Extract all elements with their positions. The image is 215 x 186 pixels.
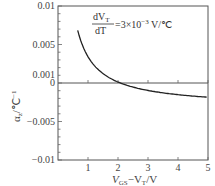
- x-tick-label: 5: [206, 162, 211, 173]
- x-tick-label: 1: [86, 162, 91, 173]
- x-tick-label: 4: [176, 162, 181, 173]
- chart: 0.010.0050.0010−0.005−0.01 12345 dVT dT …: [0, 0, 215, 186]
- x-axis-label: VGS−VT/V: [112, 173, 157, 186]
- svg-text:dVT: dVT: [93, 11, 110, 24]
- y-tick-labels: 0.010.0050.0010−0.005−0.01: [27, 0, 55, 165]
- y-tick-label: 0.005: [33, 39, 56, 50]
- annotation: dVT dT =3×10−3 V/℃: [92, 11, 172, 36]
- svg-text:dT: dT: [95, 25, 106, 36]
- x-tick-labels: 12345: [86, 162, 211, 173]
- y-tick-label: −0.005: [27, 116, 55, 127]
- y-minor-ticks: [58, 6, 62, 160]
- svg-text:=3×10−3 V/℃: =3×10−3 V/℃: [115, 18, 172, 30]
- alpha-curve: [78, 30, 207, 97]
- x-ticks: [88, 80, 208, 160]
- x-tick-label: 2: [116, 162, 121, 173]
- y-axis-label: αz/℃−1: [10, 90, 24, 122]
- y-tick-label: 0: [50, 77, 55, 88]
- y-tick-label: 0.01: [38, 0, 56, 11]
- y-tick-label: −0.01: [32, 154, 55, 165]
- x-tick-label: 3: [146, 162, 151, 173]
